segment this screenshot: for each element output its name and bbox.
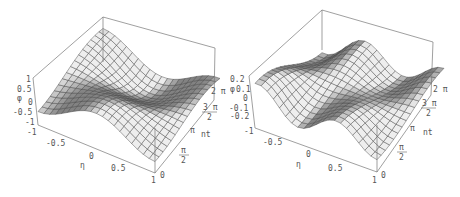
x-tick-neg1: -1 (27, 128, 37, 137)
surface-mesh (255, 40, 444, 159)
y-tick-2pi: 2 π (433, 85, 448, 94)
z-tick-neg0.2: -0.2 (230, 112, 249, 121)
z-tick-0: 0 (28, 98, 33, 107)
z-tick-0: 0 (243, 94, 248, 103)
x-tick-0.5: 0.5 (328, 164, 343, 173)
y-tick-3pi-half-num: 3 π (422, 99, 437, 108)
y-tick-pi-half-den: 2 (399, 153, 404, 162)
x-tick-neg1: -1 (244, 127, 254, 136)
x-tick-1: 1 (372, 176, 377, 185)
y-tick-0: 0 (160, 171, 165, 180)
y-axis-label: nt (423, 128, 433, 137)
z-tick-neg1: -1 (25, 118, 35, 127)
x-tick-0: 0 (306, 150, 311, 159)
surface-plot-right-canvas: 0.2 φ 0.1 0 -0.1 -0.2 -1 -0.5 0 η 0.5 1 … (230, 0, 460, 197)
z-tick-0.5: 0.5 (17, 85, 32, 94)
x-tick-neg0.5: -0.5 (46, 139, 65, 148)
x-axis-label: η (80, 161, 85, 170)
z-tick-0.1: 0.1 (236, 85, 251, 94)
y-tick-2pi: 2 π (211, 87, 226, 96)
surface-plot-left-canvas: 1 0.5 φ 0 -0.5 -1 -1 -0.5 0 η 0.5 1 0 π … (0, 0, 230, 197)
z-tick-1: 1 (26, 75, 31, 84)
surface-plot-left: 1 0.5 φ 0 -0.5 -1 -1 -0.5 0 η 0.5 1 0 π … (0, 0, 230, 197)
y-tick-3pi-half-den: 2 (207, 113, 212, 122)
x-tick-1: 1 (151, 176, 156, 185)
z-tick-neg0.5: -0.5 (13, 108, 32, 117)
y-tick-pi-half-num: π (399, 143, 404, 152)
y-tick-pi: π (410, 124, 415, 133)
surface-plot-right: 0.2 φ 0.1 0 -0.1 -0.2 -1 -0.5 0 η 0.5 1 … (230, 0, 460, 197)
y-tick-pi-half-den: 2 (181, 156, 186, 165)
x-tick-0.5: 0.5 (111, 164, 126, 173)
surface-mesh (38, 28, 220, 161)
y-tick-3pi-half-den: 2 (426, 109, 431, 118)
z-axis-label: φ (230, 85, 235, 94)
y-tick-3pi-half-num: 3 π (203, 103, 218, 112)
z-axis-label: φ (17, 94, 22, 103)
x-tick-neg0.5: -0.5 (263, 138, 282, 147)
z-tick-0.2: 0.2 (230, 75, 245, 84)
x-axis-label: η (296, 160, 301, 169)
y-tick-0: 0 (381, 171, 386, 180)
y-tick-pi-half-num: π (181, 146, 186, 155)
y-tick-pi: π (190, 126, 195, 135)
y-axis-label: nt (201, 130, 211, 139)
x-tick-0: 0 (89, 152, 94, 161)
